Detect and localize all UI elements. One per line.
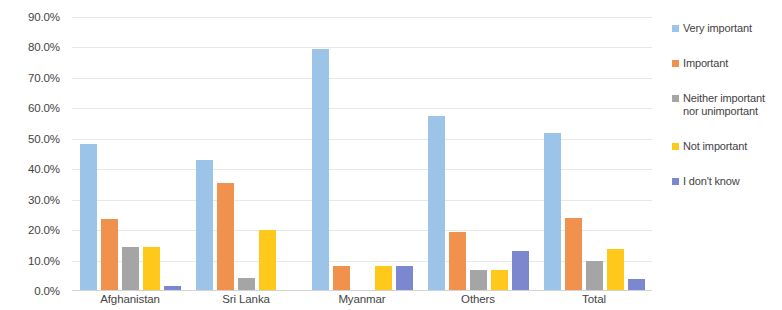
legend-swatch-icon — [672, 95, 679, 102]
x-axis: AfghanistanSri LankaMyanmarOthersTotal — [72, 293, 652, 310]
y-axis-tick-label: 70.0% — [28, 72, 60, 84]
bar[interactable] — [565, 218, 582, 291]
bar-groups — [72, 17, 652, 291]
legend-swatch-icon — [672, 143, 679, 150]
y-axis-tick-label: 10.0% — [28, 255, 60, 267]
y-axis: 90.0%80.0%70.0%60.0%50.0%40.0%30.0%20.0%… — [0, 0, 66, 291]
bar[interactable] — [143, 247, 160, 291]
chart-legend: Very importantImportantNeither important… — [672, 22, 782, 210]
x-axis-tick-label: Afghanistan — [72, 293, 188, 310]
legend-item[interactable]: Important — [672, 57, 782, 70]
bar-group — [420, 17, 536, 291]
legend-swatch-icon — [672, 178, 679, 185]
y-axis-tick-label: 0.0% — [34, 285, 60, 297]
bar[interactable] — [80, 144, 97, 291]
legend-label: I don't know — [683, 175, 740, 188]
legend-swatch-icon — [672, 60, 679, 67]
bar[interactable] — [607, 249, 624, 291]
bar-group — [188, 17, 304, 291]
y-axis-tick-label: 90.0% — [28, 11, 60, 23]
bar-group — [536, 17, 652, 291]
bar[interactable] — [428, 116, 445, 291]
bar[interactable] — [259, 230, 276, 291]
bar-group — [304, 17, 420, 291]
y-axis-tick-label: 40.0% — [28, 163, 60, 175]
bar[interactable] — [122, 247, 139, 291]
y-axis-tick-label: 30.0% — [28, 194, 60, 206]
bar[interactable] — [586, 261, 603, 291]
x-axis-tick-label: Myanmar — [304, 293, 420, 310]
bar[interactable] — [396, 266, 413, 291]
y-axis-tick-label: 80.0% — [28, 41, 60, 53]
legend-item[interactable]: Not important — [672, 140, 782, 153]
x-axis-line — [72, 290, 652, 291]
x-axis-tick-label: Sri Lanka — [188, 293, 304, 310]
legend-swatch-icon — [672, 25, 679, 32]
bar[interactable] — [491, 270, 508, 291]
y-axis-tick-label: 60.0% — [28, 102, 60, 114]
bar[interactable] — [470, 270, 487, 291]
bar[interactable] — [101, 219, 118, 291]
bar[interactable] — [449, 232, 466, 291]
bar[interactable] — [312, 49, 329, 291]
legend-label: Neither important nor unimportant — [683, 92, 782, 118]
bar[interactable] — [512, 251, 529, 291]
legend-item[interactable]: Neither important nor unimportant — [672, 92, 782, 118]
bar[interactable] — [333, 266, 350, 291]
legend-item[interactable]: Very important — [672, 22, 782, 35]
legend-label: Important — [683, 57, 728, 70]
plot-area — [72, 17, 652, 291]
bar[interactable] — [196, 160, 213, 291]
legend-label: Very important — [683, 22, 752, 35]
bar[interactable] — [375, 266, 392, 291]
bar-chart: 90.0%80.0%70.0%60.0%50.0%40.0%30.0%20.0%… — [0, 0, 782, 310]
bar[interactable] — [217, 183, 234, 291]
x-axis-tick-label: Others — [420, 293, 536, 310]
legend-label: Not important — [683, 140, 747, 153]
y-axis-tick-label: 20.0% — [28, 224, 60, 236]
legend-item[interactable]: I don't know — [672, 175, 782, 188]
y-axis-tick-label: 50.0% — [28, 133, 60, 145]
bar[interactable] — [544, 133, 561, 291]
x-axis-tick-label: Total — [536, 293, 652, 310]
bar-group — [72, 17, 188, 291]
